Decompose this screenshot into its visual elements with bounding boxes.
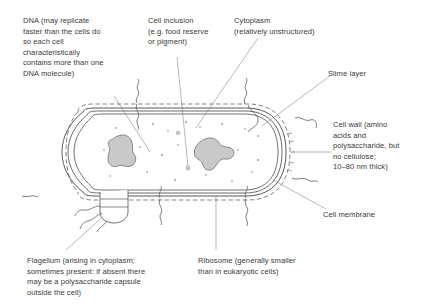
slime-projection-right-bottom [292, 178, 318, 182]
slime-projection-1 [136, 79, 139, 103]
figure-canvas: DNA (may replicate faster than the cells… [0, 0, 426, 308]
label-cytoplasm: Cytoplasm (relatively unstructured) [234, 16, 330, 37]
label-ribosome: Ribosome (generally smaller than in euka… [198, 256, 348, 277]
label-slime-layer: Slime layer [328, 69, 418, 80]
label-cell-wall: Cell wall (amino acids and polysaccharid… [333, 120, 425, 173]
cell-left-cap-wall [62, 111, 84, 193]
flagellum-body [100, 190, 128, 223]
cell-left-cap-membrane [74, 117, 92, 187]
slime-projection-3 [159, 199, 162, 225]
leader-slime-layer [262, 76, 330, 126]
flagellum-basal-body [75, 190, 128, 232]
slime-layer-projections-bottom [22, 186, 248, 226]
label-cell-membrane: Cell membrane [323, 210, 419, 221]
label-dna: DNA (may replicate faster than the cells… [23, 16, 147, 80]
label-cell-inclusion: Cell inclusion (e.g. food reserve or pig… [148, 16, 228, 48]
slime-projection-2 [244, 78, 247, 104]
cell-left-cap-wall-inner [68, 114, 88, 190]
cell-inclusion-granule-2 [176, 131, 180, 135]
leader-cell-membrane [273, 180, 326, 209]
slime-projection-left [22, 196, 38, 197]
cell-inclusion-granule [186, 166, 190, 170]
leader-cell-inclusion [177, 57, 188, 166]
nucleoid-dna-right [194, 138, 234, 170]
nucleoid-dna-left [108, 135, 136, 167]
slime-projection-right-top [295, 118, 317, 128]
slime-layer-projections [136, 78, 318, 182]
label-flagellum: Flagellum (arising in cytoplasm; sometim… [27, 256, 192, 298]
cell-wall-thickness-marks [287, 133, 295, 171]
slime-projection-4 [245, 199, 248, 226]
